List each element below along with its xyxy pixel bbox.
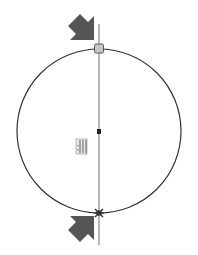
arrow-down-right-icon xyxy=(68,14,94,40)
sketch-canvas xyxy=(0,0,198,255)
top-point-handle[interactable] xyxy=(95,44,104,53)
vertical-constraint-icon[interactable] xyxy=(76,139,87,154)
center-point-handle[interactable] xyxy=(97,129,101,134)
arrow-up-right-icon xyxy=(68,216,94,242)
